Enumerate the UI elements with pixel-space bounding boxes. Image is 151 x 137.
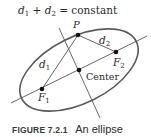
center-point	[77, 68, 82, 73]
figure-title: An ellipse	[75, 123, 123, 135]
center-label: Center	[86, 71, 119, 82]
equation-label: d1 + d2 = constant	[18, 4, 118, 18]
d2-segment	[78, 35, 116, 52]
ellipse-figure: d1 + d2 = constant P d1 d2 F1 F2 Center …	[0, 0, 151, 137]
ellipse-diagram: d1 + d2 = constant P d1 d2 F1 F2 Center	[0, 0, 151, 137]
point-p-label: P	[72, 19, 80, 30]
f2-label: F2	[112, 56, 125, 70]
focus-f2	[114, 50, 119, 55]
d1-label: d1	[39, 58, 50, 72]
f1-label: F1	[37, 91, 50, 105]
figure-number: FIGURE 7.2.1	[12, 125, 68, 135]
figure-caption: FIGURE 7.2.1 An ellipse	[12, 119, 123, 137]
point-p	[76, 33, 81, 38]
d2-label: d2	[99, 34, 110, 48]
